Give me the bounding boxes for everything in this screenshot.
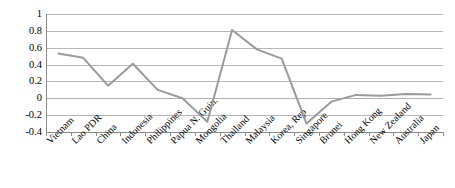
data-series-layer xyxy=(0,0,455,188)
line-chart: 1 0.8 0.6 0.4 0.2 0 -0.2 -0.4 VietnamLao… xyxy=(0,0,455,188)
series-line xyxy=(58,30,430,124)
